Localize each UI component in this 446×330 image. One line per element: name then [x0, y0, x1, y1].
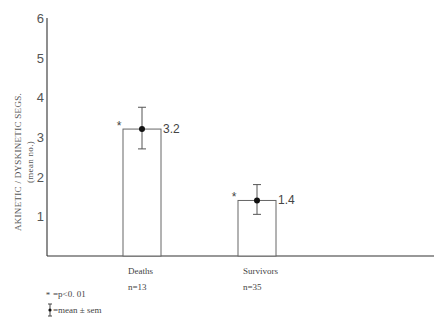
- y-tick-label: 4: [37, 90, 44, 105]
- y-tick-label: 5: [37, 51, 44, 66]
- value-label: 3.2: [163, 122, 180, 136]
- significance-marker: *: [117, 119, 122, 133]
- y-tick-label: 6: [37, 11, 44, 26]
- bar-chart: 123456AKINETIC / DYSKINETIC SEGS.(mean n…: [0, 0, 446, 330]
- legend-star-symbol: *: [46, 290, 51, 300]
- legend-mean-dot: [48, 308, 51, 311]
- mean-point: [139, 126, 145, 132]
- legend-star-label: =p<0. 01: [53, 289, 86, 299]
- significance-marker: *: [232, 190, 237, 204]
- y-tick-label: 3: [37, 130, 44, 145]
- n-label: n=35: [243, 282, 262, 292]
- mean-point: [254, 197, 260, 203]
- y-axis-label: AKINETIC / DYSKINETIC SEGS.: [13, 93, 23, 231]
- y-axis-sublabel: (mean no.): [25, 141, 35, 183]
- y-tick-label: 1: [37, 209, 44, 224]
- n-label: n=13: [128, 282, 147, 292]
- value-label: 1.4: [278, 193, 295, 207]
- category-label: Survivors: [243, 266, 279, 276]
- category-label: Deaths: [128, 266, 153, 276]
- legend-errorbar-label: =mean ± sem: [53, 305, 102, 315]
- y-tick-label: 2: [37, 170, 44, 185]
